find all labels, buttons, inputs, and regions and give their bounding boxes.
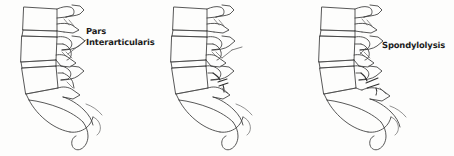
spine-drawing-spondylolisthesis <box>300 0 451 156</box>
panel-normal-pars: Pars Interarticularis <box>0 0 151 156</box>
spine-drawing-normal <box>0 0 151 156</box>
sacrum-coccyx <box>179 97 252 150</box>
panel-spondylolisthesis: Spondylolisthesis <box>300 0 451 156</box>
sacrum-coccyx <box>327 99 406 150</box>
spine-drawing-spondylolysis <box>150 0 301 156</box>
sacrum-coccyx <box>29 97 102 150</box>
posterior-elements <box>206 5 235 99</box>
posterior-elements <box>354 5 390 101</box>
spine-illustration-figure: Pars Interarticularis <box>0 0 454 156</box>
label-pars-interarticularis: Pars Interarticularis <box>86 26 155 47</box>
vertebral-bodies <box>21 7 58 100</box>
vertebral-bodies <box>319 7 356 100</box>
leader-line-spondylolysis <box>222 47 242 58</box>
vertebral-bodies <box>171 7 208 100</box>
panel-spondylolysis: Spondylolysis <box>150 0 301 156</box>
